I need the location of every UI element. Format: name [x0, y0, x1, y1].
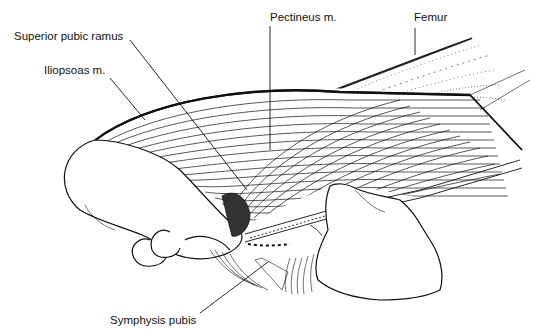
- label-symphysis-pubis: Symphysis pubis: [110, 315, 196, 327]
- anatomical-illustration: Superior pubic ramus Iliopsoas m. Pectin…: [0, 0, 534, 333]
- leader-symphysis-pubis: [200, 262, 268, 313]
- line-drawing: [0, 0, 534, 333]
- label-iliopsoas: Iliopsoas m.: [44, 65, 105, 77]
- left-hand: [64, 140, 242, 266]
- label-superior-pubic-ramus: Superior pubic ramus: [14, 31, 123, 43]
- lower-fibres: [210, 250, 314, 294]
- right-hand: [310, 184, 442, 300]
- leader-iliopsoas: [110, 78, 145, 120]
- label-pectineus: Pectineus m.: [270, 12, 336, 24]
- pubic-bone-edge: [248, 244, 290, 246]
- label-femur: Femur: [414, 12, 447, 24]
